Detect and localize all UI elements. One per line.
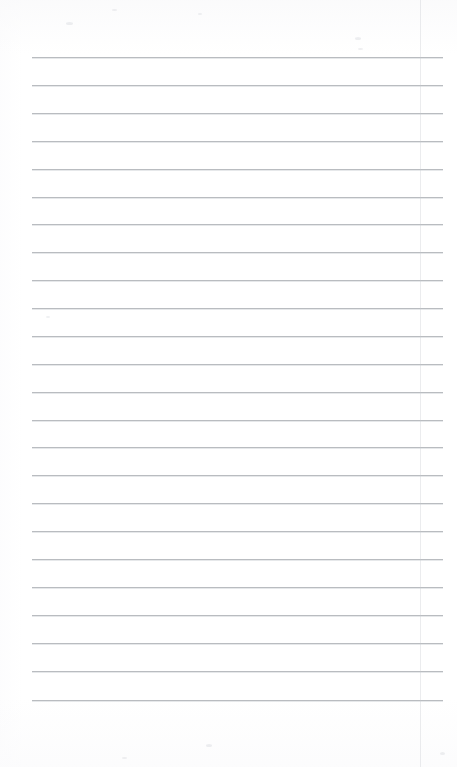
lined-paper-page <box>0 0 457 767</box>
ruled-line <box>32 700 443 701</box>
page-content-text[interactable] <box>32 57 443 700</box>
